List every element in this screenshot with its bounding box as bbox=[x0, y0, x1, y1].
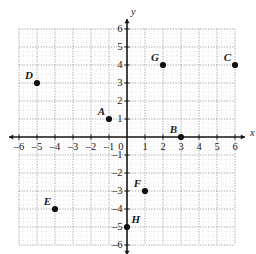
x-tick-label-6: 6 bbox=[232, 142, 237, 153]
y-axis-arrow-up bbox=[124, 19, 129, 23]
x-tick-label-1: 1 bbox=[142, 142, 147, 153]
data-point-A bbox=[106, 116, 112, 122]
y-tick-label-4: 4 bbox=[117, 60, 122, 71]
y-tick-label--4: –4 bbox=[112, 204, 123, 215]
point-label-D: D bbox=[25, 70, 33, 81]
y-tick-label--2: –2 bbox=[112, 168, 123, 179]
axes bbox=[9, 19, 245, 254]
point-label-F: F bbox=[134, 178, 141, 189]
x-tick-label-5: 5 bbox=[214, 142, 219, 153]
data-point-B bbox=[178, 134, 184, 140]
y-tick-label-6: 6 bbox=[117, 24, 122, 35]
x-tick-label--2: –2 bbox=[86, 142, 97, 153]
y-tick-label-5: 5 bbox=[117, 42, 122, 53]
point-label-B: B bbox=[170, 124, 177, 135]
point-label-A: A bbox=[98, 106, 105, 117]
data-point-H bbox=[124, 224, 130, 230]
y-axis-label: y bbox=[131, 7, 136, 18]
y-tick-label--5: –5 bbox=[112, 222, 123, 233]
y-tick-label-1: 1 bbox=[117, 114, 122, 125]
coordinate-plane-figure: –6–5–4–3–2–11234560–6–5–4–3–2–1123456xyA… bbox=[0, 0, 256, 254]
x-tick-label-2: 2 bbox=[160, 142, 165, 153]
y-tick-label--3: –3 bbox=[112, 186, 123, 197]
x-axis-arrow-left bbox=[9, 134, 13, 139]
y-tick-label--6: –6 bbox=[112, 240, 123, 251]
x-tick-label--6: –6 bbox=[14, 142, 25, 153]
y-tick-label-3: 3 bbox=[117, 78, 122, 89]
point-label-H: H bbox=[132, 214, 141, 225]
x-tick-label-3: 3 bbox=[178, 142, 183, 153]
y-tick-label-2: 2 bbox=[117, 96, 122, 107]
data-point-F bbox=[142, 188, 148, 194]
x-axis-label: x bbox=[250, 128, 255, 139]
point-label-G: G bbox=[151, 52, 159, 63]
point-label-E: E bbox=[44, 196, 51, 207]
x-tick-label--5: –5 bbox=[32, 142, 43, 153]
data-point-C bbox=[232, 62, 238, 68]
y-tick-label--1: –1 bbox=[112, 150, 123, 161]
point-label-C: C bbox=[224, 52, 231, 63]
x-tick-label--3: –3 bbox=[68, 142, 79, 153]
x-tick-label-4: 4 bbox=[196, 142, 201, 153]
x-tick-label--4: –4 bbox=[50, 142, 61, 153]
data-point-E bbox=[52, 206, 58, 212]
plot-svg bbox=[0, 0, 256, 254]
data-point-G bbox=[160, 62, 166, 68]
x-axis-arrow-right bbox=[241, 134, 245, 139]
data-point-D bbox=[34, 80, 40, 86]
